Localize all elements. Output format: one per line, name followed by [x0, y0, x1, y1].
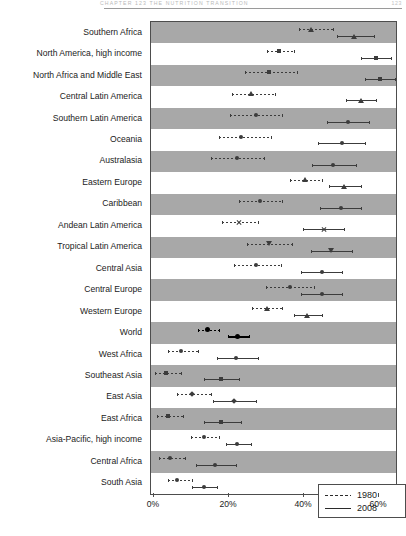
interval-cap — [267, 50, 268, 53]
data-point-marker — [277, 49, 281, 53]
category-label: Asia-Pacific, high income — [46, 434, 142, 444]
interval-cap — [318, 142, 319, 145]
interval-cap — [251, 443, 252, 446]
interval-cap — [361, 185, 362, 188]
data-point-marker — [358, 98, 364, 103]
interval-cap — [342, 293, 343, 296]
interval-cap — [294, 50, 295, 53]
interval-cap — [217, 486, 218, 489]
plot-band — [151, 387, 396, 408]
data-point-marker — [320, 270, 324, 274]
category-label: Central Asia — [96, 263, 142, 273]
interval-cap — [256, 400, 257, 403]
plot-band — [151, 215, 396, 236]
data-point-marker — [235, 334, 240, 339]
data-point-marker — [166, 414, 170, 418]
interval-cap — [211, 393, 212, 396]
category-label: Eastern Europe — [82, 177, 142, 187]
interval-cap — [282, 114, 283, 117]
confidence-interval-line — [168, 480, 192, 481]
data-point-marker — [264, 306, 270, 311]
interval-cap — [241, 421, 242, 424]
interval-cap — [183, 415, 184, 418]
interval-cap — [297, 71, 298, 74]
category-label: Tropical Latin America — [57, 241, 142, 251]
data-point-marker — [339, 206, 343, 210]
interval-cap — [356, 164, 357, 167]
interval-cap — [365, 78, 366, 81]
interval-cap — [258, 221, 259, 224]
interval-cap — [329, 185, 330, 188]
interval-cap — [301, 271, 302, 274]
plot-band — [151, 451, 396, 472]
data-point-marker — [351, 34, 357, 39]
category-label: East Asia — [106, 391, 142, 401]
plot-band — [151, 108, 396, 129]
interval-cap — [181, 372, 182, 375]
category-label: North America, high income — [36, 48, 142, 58]
interval-cap — [311, 250, 312, 253]
interval-cap — [204, 378, 205, 381]
interval-cap — [333, 28, 334, 31]
interval-cap — [369, 121, 370, 124]
data-point-marker — [331, 163, 335, 167]
interval-cap — [346, 99, 347, 102]
category-label: Western Europe — [80, 306, 142, 316]
interval-cap — [185, 457, 186, 460]
category-label: Andean Latin America — [58, 220, 142, 230]
interval-cap — [236, 464, 237, 467]
data-point-marker — [248, 91, 254, 96]
axis-tick-label: 0% — [147, 499, 159, 509]
interval-cap — [247, 243, 248, 246]
interval-cap — [322, 314, 323, 317]
interval-cap — [168, 350, 169, 353]
interval-cap — [282, 200, 283, 203]
axis-tick — [228, 493, 229, 497]
data-point-marker — [288, 285, 292, 289]
forest-plot-chart: Southern AfricaNorth America, high incom… — [0, 18, 406, 518]
interval-cap — [271, 136, 272, 139]
data-point-marker — [202, 485, 206, 489]
data-point-marker — [320, 292, 324, 296]
axis-tick — [378, 493, 379, 497]
axis-tick — [303, 493, 304, 497]
data-point-marker — [164, 371, 168, 375]
data-point-marker — [321, 226, 327, 232]
interval-cap — [312, 164, 313, 167]
confidence-interval-line — [299, 29, 333, 30]
plot-band — [151, 408, 396, 429]
interval-cap — [211, 157, 212, 160]
interval-cap — [230, 114, 231, 117]
plot-band — [151, 151, 396, 172]
interval-cap — [219, 136, 220, 139]
plot-band — [151, 65, 396, 86]
interval-cap — [281, 264, 282, 267]
interval-cap — [191, 436, 192, 439]
axis-tick-label: 60% — [369, 499, 386, 509]
plot-band — [151, 43, 396, 64]
category-label: Southern Latin America — [53, 113, 142, 123]
interval-cap — [374, 35, 375, 38]
interval-cap — [168, 479, 169, 482]
category-label: South Asia — [101, 477, 142, 487]
interval-cap — [391, 57, 392, 60]
plot-band — [151, 237, 396, 258]
interval-cap — [294, 314, 295, 317]
x-axis: 0%20%40%60% — [150, 493, 395, 517]
category-label: Australasia — [99, 155, 142, 165]
interval-cap — [234, 264, 235, 267]
axis-tick-label: 20% — [219, 499, 236, 509]
interval-cap — [303, 228, 304, 231]
data-point-marker — [341, 184, 347, 189]
confidence-interval-line — [168, 351, 198, 352]
interval-cap — [322, 179, 323, 182]
data-point-marker — [234, 356, 238, 360]
plot-band — [151, 129, 396, 150]
page-number: 123 — [392, 0, 402, 6]
plot-area — [150, 21, 397, 495]
data-point-marker — [328, 248, 334, 253]
data-point-marker — [308, 27, 314, 32]
interval-cap — [275, 93, 276, 96]
interval-cap — [249, 335, 250, 338]
plot-band — [151, 344, 396, 365]
